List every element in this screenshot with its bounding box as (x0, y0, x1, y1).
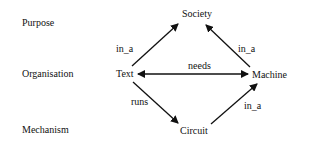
edge-label-circuit-machine: in_a (244, 100, 261, 112)
edge-label-text-society: in_a (116, 43, 133, 55)
edge-text-society (132, 24, 178, 66)
level-organisation: Organisation (22, 68, 73, 80)
node-society: Society (182, 8, 212, 20)
node-machine: Machine (252, 69, 287, 81)
node-text: Text (116, 68, 134, 80)
edge-label-machine-society: in_a (238, 43, 255, 55)
level-purpose: Purpose (22, 17, 54, 29)
level-mechanism: Mechanism (22, 124, 69, 136)
edge-label-text-machine: needs (188, 60, 211, 72)
edge-label-text-circuit: runs (131, 96, 148, 108)
node-circuit: Circuit (180, 125, 208, 137)
